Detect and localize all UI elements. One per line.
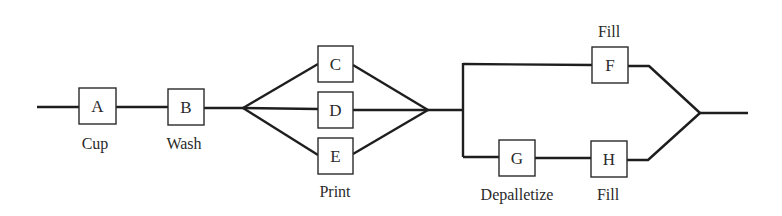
edges [37, 63, 748, 160]
node-g-label: G [511, 149, 523, 168]
node-b-label: B [180, 98, 191, 117]
node-h-label: H [603, 150, 615, 169]
node-g: G Depalletize [481, 140, 554, 204]
node-f-caption: Fill [598, 23, 621, 40]
node-h-caption: Fill [597, 186, 620, 203]
node-f-label: F [605, 56, 614, 75]
edge-split-to-c [243, 64, 318, 108]
node-e-label: E [330, 147, 340, 166]
edge-f-to-end-merge [628, 66, 700, 113]
node-d-label: D [329, 101, 341, 120]
edge-split-to-e [243, 108, 318, 155]
process-flow-diagram: A Cup B Wash C D E Print Fill F G Depall… [0, 0, 782, 216]
node-d: D [318, 92, 353, 128]
edge-branch-to-f [463, 64, 592, 65]
node-h: H Fill [591, 141, 627, 203]
node-g-caption: Depalletize [481, 186, 554, 204]
node-e: E [318, 138, 353, 174]
node-a-caption: Cup [82, 135, 109, 153]
edge-c-to-merge [353, 65, 428, 110]
node-a-label: A [91, 97, 104, 116]
node-c-label: C [330, 55, 341, 74]
node-c: C [318, 46, 353, 82]
edge-e-to-merge [353, 110, 428, 154]
edge-split-to-d [243, 108, 318, 109]
node-b: B Wash [166, 89, 204, 152]
edge-h-to-end-merge [627, 113, 700, 160]
node-f: Fill F [592, 23, 628, 83]
node-a: A Cup [79, 88, 116, 153]
node-b-caption: Wash [166, 135, 201, 152]
print-group-caption: Print [319, 183, 351, 200]
